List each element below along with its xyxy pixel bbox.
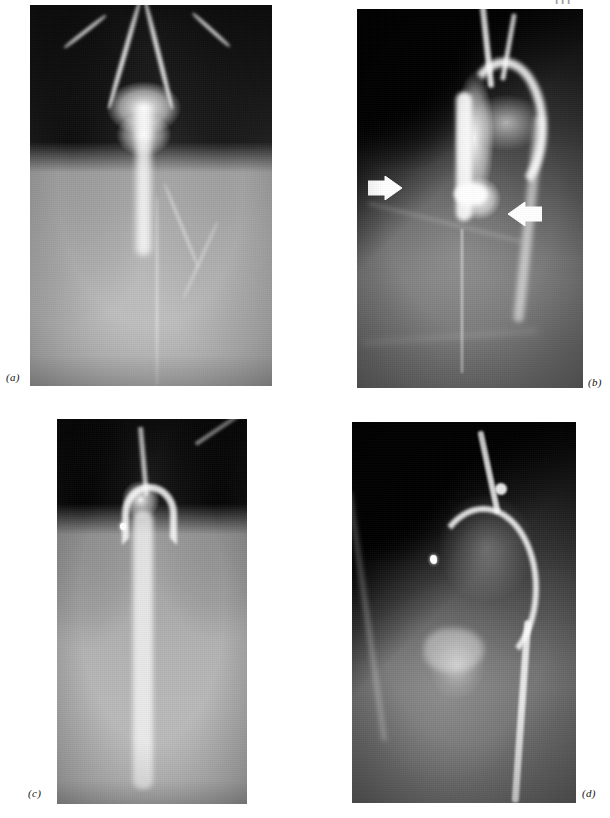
radiograph-panel-a[interactable]: [30, 5, 272, 386]
arrow-marker-right-icon: [508, 202, 542, 226]
radiograph-panel-c[interactable]: [57, 419, 247, 804]
panel-label-b: (b): [588, 376, 602, 388]
descending-aorta-a: [136, 104, 151, 256]
hilar-density-d: [424, 628, 484, 672]
page-number-header: 111: [543, 0, 583, 4]
catheter-b: [461, 229, 463, 373]
panel-label-c: (c): [28, 787, 41, 799]
panel-label-a: (a): [6, 371, 20, 383]
radiograph-panel-b[interactable]: [357, 9, 583, 388]
catheter-line-a: [156, 196, 158, 387]
panel-label-d: (d): [582, 787, 596, 799]
descending-aorta-c: [133, 511, 153, 788]
radiograph-panel-d[interactable]: [352, 422, 576, 803]
surgical-clip-c: [120, 523, 126, 530]
arrow-marker-left-icon: [368, 176, 402, 200]
